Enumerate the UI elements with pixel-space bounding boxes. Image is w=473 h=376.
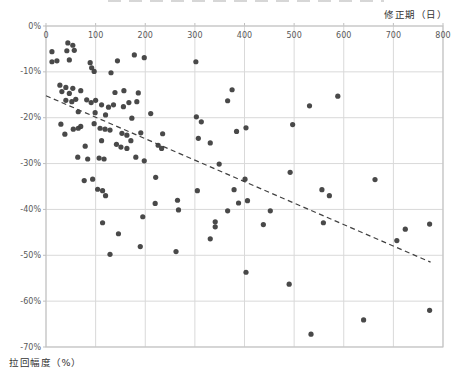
data-point	[54, 58, 59, 63]
data-point	[93, 98, 98, 103]
data-point	[92, 69, 97, 74]
data-point	[142, 55, 147, 60]
data-point	[138, 130, 143, 135]
data-point	[70, 86, 75, 91]
x-tick-label: 500	[286, 31, 301, 40]
data-point	[138, 244, 143, 249]
data-point	[58, 122, 63, 127]
data-point	[213, 224, 218, 229]
data-point	[57, 83, 62, 88]
data-point	[59, 89, 64, 94]
x-tick-label: 700	[386, 31, 401, 40]
data-point	[63, 85, 68, 90]
data-point	[72, 48, 77, 53]
data-point	[287, 282, 292, 287]
data-point	[133, 155, 138, 160]
y-tick-label: 0%	[28, 22, 41, 31]
x-tick-label: 300	[187, 31, 202, 40]
data-point	[427, 222, 432, 227]
data-point	[78, 88, 83, 93]
data-point	[114, 142, 119, 147]
data-point	[194, 114, 199, 119]
data-point	[124, 146, 129, 151]
data-point	[208, 140, 213, 145]
data-point	[261, 222, 266, 227]
x-tick-label: 100	[88, 31, 103, 40]
data-point	[49, 59, 54, 64]
data-point	[119, 131, 124, 136]
data-point	[208, 236, 213, 241]
data-point	[121, 104, 126, 109]
data-point	[160, 131, 165, 136]
data-point	[394, 238, 399, 243]
data-point	[136, 90, 141, 95]
x-tick-label: 0	[43, 31, 48, 40]
data-point	[89, 100, 94, 105]
data-point	[99, 102, 104, 107]
data-point	[115, 58, 120, 63]
data-point	[153, 175, 158, 180]
data-point	[243, 270, 248, 275]
data-point	[82, 178, 87, 183]
y-tick-label: -30%	[20, 159, 41, 168]
data-point	[243, 125, 248, 130]
data-point	[70, 43, 75, 48]
data-point	[62, 132, 67, 137]
y-tick-label: -50%	[20, 251, 41, 260]
data-point	[116, 231, 121, 236]
data-point	[96, 155, 101, 160]
data-point	[372, 177, 377, 182]
data-point	[403, 227, 408, 232]
data-point	[308, 332, 313, 337]
data-point	[76, 109, 81, 114]
data-point	[90, 177, 95, 182]
data-point	[49, 49, 54, 54]
data-point	[75, 155, 80, 160]
data-point	[103, 112, 108, 117]
data-point	[307, 103, 312, 108]
data-point	[124, 133, 129, 138]
data-point	[83, 144, 88, 149]
data-point	[76, 126, 81, 131]
data-point	[225, 208, 230, 213]
data-point	[427, 308, 432, 313]
data-point	[100, 220, 105, 225]
data-point	[111, 102, 116, 107]
data-point	[84, 97, 89, 102]
data-point	[176, 207, 181, 212]
x-tick-label: 600	[336, 31, 351, 40]
data-point	[153, 201, 158, 206]
data-point	[142, 158, 147, 163]
data-point	[132, 52, 137, 57]
data-point	[67, 91, 72, 96]
data-point	[148, 111, 153, 116]
data-point	[288, 170, 293, 175]
x-tick-label: 800	[435, 31, 450, 40]
data-point	[71, 127, 76, 132]
data-point	[321, 220, 326, 225]
data-point	[195, 188, 200, 193]
data-point	[106, 105, 111, 110]
data-point	[121, 88, 126, 93]
data-point	[134, 99, 139, 104]
data-point	[67, 57, 72, 62]
data-point	[361, 317, 366, 322]
data-point	[217, 161, 222, 166]
data-point	[101, 156, 106, 161]
data-point	[128, 138, 133, 143]
data-point	[327, 193, 332, 198]
data-point	[290, 122, 295, 127]
data-point	[112, 90, 117, 95]
data-point	[199, 119, 204, 124]
data-point	[95, 187, 100, 192]
data-point	[173, 249, 178, 254]
data-point	[85, 156, 90, 161]
y-tick-label: -40%	[20, 205, 41, 214]
data-point	[99, 138, 104, 143]
data-point	[126, 100, 131, 105]
data-point	[103, 193, 108, 198]
y-tick-label: -20%	[20, 113, 41, 122]
data-point	[175, 198, 180, 203]
data-point	[140, 214, 145, 219]
y-tick-label: -70%	[20, 343, 41, 352]
